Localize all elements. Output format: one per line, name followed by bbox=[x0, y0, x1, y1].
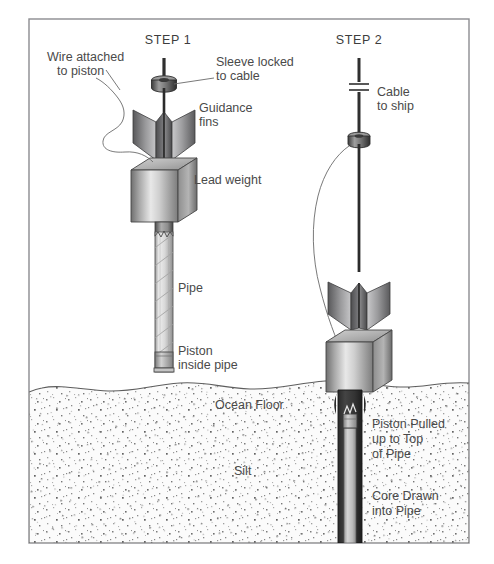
step2-label: STEP 2 bbox=[336, 33, 382, 47]
guidance-fins-label-line1: Guidance bbox=[199, 101, 253, 115]
ocean-floor-label: Ocean Floor bbox=[215, 398, 284, 412]
sleeve-locked-label-line1: Sleeve locked bbox=[216, 55, 294, 69]
piston-inside-label-line1: Piston bbox=[178, 344, 213, 358]
piston-inside-label-line2: inside pipe bbox=[178, 358, 238, 372]
lead-weight-step1 bbox=[131, 158, 197, 222]
pipe-label: Pipe bbox=[178, 281, 203, 295]
core-drawn-label-line1: Core Drawn bbox=[372, 489, 439, 503]
silt-label: Silt bbox=[234, 464, 252, 478]
cable-to-ship-label-line2: to ship bbox=[377, 99, 414, 113]
pipe-step2-embedded bbox=[334, 390, 365, 543]
piston-pulled-label-line3: of Pipe bbox=[372, 447, 411, 461]
lead-weight-label: Lead weight bbox=[194, 173, 262, 187]
diagram-canvas: STEP 1 STEP 2 Wire attached to piston Sl… bbox=[0, 0, 494, 564]
piston-pulled-label-line1: Piston Pulled bbox=[372, 417, 445, 431]
piston-step1 bbox=[154, 352, 174, 372]
sediment-core bbox=[344, 428, 356, 543]
guidance-fins-label-line2: fins bbox=[199, 115, 218, 129]
cable-to-ship-label-line1: Cable bbox=[377, 85, 410, 99]
piston-pulled-label-line2: up to Top bbox=[372, 432, 423, 446]
sleeve-locked-label-line2: to cable bbox=[216, 69, 260, 83]
step1-label: STEP 1 bbox=[145, 33, 191, 47]
piston-corer-diagram: STEP 1 STEP 2 Wire attached to piston Sl… bbox=[0, 0, 494, 564]
wire-attached-label-line1: Wire attached bbox=[47, 50, 124, 64]
wire-attached-label-line2: to piston bbox=[57, 64, 104, 78]
lead-weight-step2 bbox=[326, 330, 392, 392]
core-drawn-label-line2: into Pipe bbox=[372, 504, 421, 518]
